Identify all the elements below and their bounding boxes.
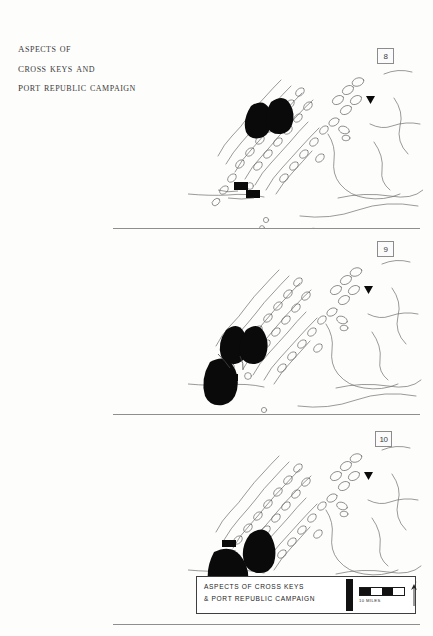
scale-bar-label: 10 MILES bbox=[359, 598, 381, 603]
scale-bar-blocks bbox=[359, 587, 405, 596]
map-panel-8: 8 bbox=[0, 30, 433, 225]
panel-divider-2 bbox=[113, 414, 420, 415]
map-drawing-10 bbox=[188, 428, 423, 593]
legend-divider-bar bbox=[346, 579, 353, 611]
map-panel-10: 10 bbox=[0, 420, 433, 590]
scale-bar: 10 MILES bbox=[358, 577, 405, 613]
map-legend-cartouche: ASPECTS OF CROSS KEYS & PORT REPUBLIC CA… bbox=[196, 576, 416, 614]
scanned-page: Aspects of Cross Keys and Port Republic … bbox=[0, 0, 433, 636]
troop-marker-group bbox=[234, 96, 375, 198]
legend-title: ASPECTS OF CROSS KEYS & PORT REPUBLIC CA… bbox=[197, 577, 346, 613]
page-bottom-rule bbox=[113, 624, 420, 625]
north-arrow-icon bbox=[405, 577, 423, 613]
map-panel-9: 9 bbox=[0, 232, 433, 412]
map-drawing-8 bbox=[188, 38, 423, 228]
troop-marker-group bbox=[203, 286, 373, 405]
map-drawing-9 bbox=[188, 234, 423, 414]
legend-title-line-1: ASPECTS OF CROSS KEYS bbox=[204, 581, 346, 593]
panel-divider-1 bbox=[113, 228, 420, 229]
legend-title-line-2: & PORT REPUBLIC CAMPAIGN bbox=[204, 593, 346, 605]
